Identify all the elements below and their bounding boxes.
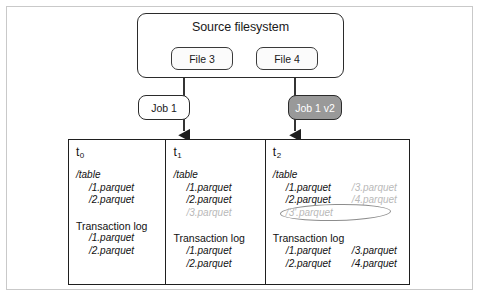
table-section-t2: /table /1.parquet /3.parquet /2.parquet … bbox=[273, 169, 409, 219]
circled-orphan-file-t2: /3'.parquet bbox=[273, 207, 409, 220]
timeline-table: t0 /table /1.parquet /2.parquet Transact… bbox=[68, 139, 410, 285]
time-label-t2: t2 bbox=[273, 146, 409, 158]
log-file-item: /2.parquet bbox=[286, 258, 352, 271]
log-section-t0: Transaction log /1.parquet /2.parquet bbox=[76, 220, 165, 258]
log-file-grid-t2: /1.parquet /3.parquet /2.parquet /4.parq… bbox=[273, 245, 409, 270]
log-section-t1: Transaction log /1.parquet /2.parquet bbox=[173, 232, 264, 270]
table-file-list-t0: /1.parquet /2.parquet bbox=[76, 182, 165, 207]
source-filesystem-box: Source filesystem File 3 File 4 bbox=[137, 13, 344, 78]
table-file-list-t1: /1.parquet /2.parquet /3.parquet bbox=[173, 182, 264, 220]
job-box-job-1: Job 1 bbox=[138, 95, 190, 120]
table-file-item: /2.parquet bbox=[89, 194, 165, 207]
time-index-t2: 2 bbox=[277, 151, 281, 160]
timeline-column-t1: t1 /table /1.parquet /2.parquet /3.parqu… bbox=[165, 140, 264, 284]
table-file-row: /1.parquet /3.parquet bbox=[286, 182, 409, 195]
table-file-item: /1.parquet bbox=[186, 182, 264, 195]
log-file-item: /2.parquet bbox=[89, 245, 165, 258]
source-filesystem-title: Source filesystem bbox=[138, 20, 343, 34]
table-file-item: /1.parquet bbox=[89, 182, 165, 195]
table-heading-t1: /table bbox=[173, 169, 264, 182]
file-chip-file-3: File 3 bbox=[171, 47, 233, 70]
time-letter-t2: t bbox=[273, 145, 276, 159]
log-file-list-t1: /1.parquet /2.parquet bbox=[173, 245, 264, 270]
log-file-item: /1.parquet bbox=[286, 245, 352, 258]
table-section-t1: /table /1.parquet /2.parquet /3.parquet bbox=[173, 169, 264, 219]
log-heading-t0: Transaction log bbox=[76, 220, 165, 233]
file-chip-file-4: File 4 bbox=[256, 47, 318, 70]
table-section-t0: /table /1.parquet /2.parquet bbox=[76, 169, 165, 207]
log-file-item: /1.parquet bbox=[186, 245, 264, 258]
log-file-item: /2.parquet bbox=[186, 258, 264, 271]
table-file-item: /2.parquet bbox=[186, 194, 264, 207]
time-index-t0: 0 bbox=[80, 151, 84, 160]
log-file-list-t0: /1.parquet /2.parquet bbox=[76, 232, 165, 257]
log-section-t2: Transaction log /1.parquet /3.parquet /2… bbox=[273, 232, 409, 270]
log-file-item: /3.parquet bbox=[352, 245, 397, 258]
time-letter-t0: t bbox=[76, 145, 79, 159]
orphan-file-label: /3'.parquet bbox=[286, 207, 333, 218]
time-label-t1: t1 bbox=[173, 146, 264, 158]
timeline-column-t0: t0 /table /1.parquet /2.parquet Transact… bbox=[69, 140, 165, 284]
diagram-figure: Source filesystem File 3 File 4 Job 1 Jo… bbox=[0, 0, 481, 298]
time-index-t1: 1 bbox=[177, 151, 181, 160]
table-heading-t0: /table bbox=[76, 169, 165, 182]
log-file-row: /1.parquet /3.parquet bbox=[286, 245, 409, 258]
log-file-item: /1.parquet bbox=[89, 232, 165, 245]
log-file-item: /4.parquet bbox=[352, 258, 397, 271]
log-heading-t2: Transaction log bbox=[273, 232, 409, 245]
log-file-row: /2.parquet /4.parquet bbox=[286, 258, 409, 271]
table-heading-t2: /table bbox=[273, 169, 409, 182]
timeline-column-t2: t2 /table /1.parquet /3.parquet /2.parqu… bbox=[265, 140, 409, 284]
table-file-item: /1.parquet bbox=[286, 182, 352, 195]
table-file-item-uncommitted: /3.parquet bbox=[352, 182, 397, 195]
job-box-job-1-v2: Job 1 v2 bbox=[288, 95, 342, 120]
log-heading-t1: Transaction log bbox=[173, 232, 264, 245]
table-file-item-uncommitted: /3.parquet bbox=[186, 207, 264, 220]
time-label-t0: t0 bbox=[76, 146, 165, 158]
